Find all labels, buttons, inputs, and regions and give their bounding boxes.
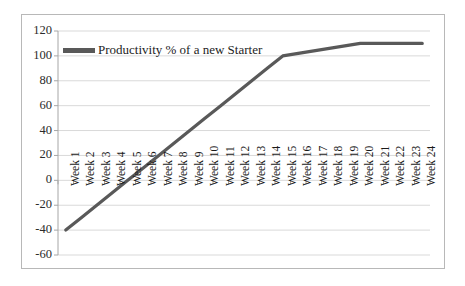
chart-legend: Productivity % of a new Starter (63, 42, 262, 58)
legend-swatch-icon (63, 48, 95, 53)
y-tick-label: 120 (22, 24, 52, 36)
y-tick-label: 100 (22, 49, 52, 61)
y-tick-label: -20 (22, 198, 52, 210)
x-tick-label: Week 16 (302, 146, 313, 186)
x-tick-label: Week 3 (101, 152, 112, 187)
x-tick-label: Week 18 (333, 146, 344, 186)
x-tick-label: Week 22 (395, 146, 406, 186)
x-tick-label: Week 10 (209, 146, 220, 186)
y-tick-label: 40 (22, 124, 52, 136)
y-tick-label: -60 (22, 248, 52, 260)
y-tick-label: -40 (22, 223, 52, 235)
x-tick-label: Week 23 (411, 146, 422, 186)
legend-label: Productivity % of a new Starter (98, 42, 262, 58)
y-tick-label: 0 (22, 173, 52, 185)
x-tick-label: Week 2 (85, 152, 96, 187)
x-tick-label: Week 20 (364, 146, 375, 186)
x-tick-label: Week 12 (240, 146, 251, 186)
productivity-chart-figure: 120100806040200-20-40-60 Week 1Week 2Wee… (0, 0, 465, 286)
x-tick-label: Week 15 (287, 146, 298, 186)
x-tick-label: Week 24 (426, 146, 437, 186)
x-tick-label: Week 9 (194, 152, 205, 187)
x-tick-label: Week 17 (318, 146, 329, 186)
y-tick-label: 20 (22, 148, 52, 160)
x-tick-label: Week 6 (147, 152, 158, 187)
x-tick-label: Week 14 (271, 146, 282, 186)
y-tick-label: 60 (22, 99, 52, 111)
x-tick-label: Week 19 (349, 146, 360, 186)
x-tick-label: Week 5 (132, 152, 143, 187)
x-tick-label: Week 1 (70, 152, 81, 187)
x-tick-label: Week 7 (163, 152, 174, 187)
x-tick-label: Week 11 (225, 146, 236, 186)
x-tick-label: Week 21 (380, 146, 391, 186)
x-tick-label: Week 4 (116, 152, 127, 187)
y-tick-label: 80 (22, 74, 52, 86)
x-tick-label: Week 13 (256, 146, 267, 186)
x-tick-label: Week 8 (178, 152, 189, 187)
